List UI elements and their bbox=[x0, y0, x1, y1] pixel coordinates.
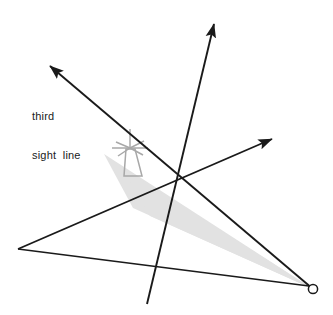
figure-root: third sight line bbox=[0, 0, 333, 315]
third-sight-line-label-line2: sight line bbox=[32, 149, 81, 162]
observation-point-marker bbox=[308, 284, 317, 293]
third-sight-line-label: third sight line bbox=[32, 84, 81, 188]
third-sight-line-label-line1: third bbox=[32, 110, 81, 123]
